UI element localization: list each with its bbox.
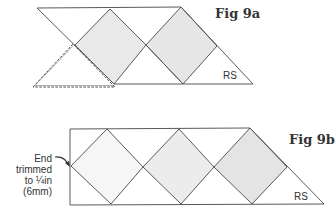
fig9b-rs-label: RS (294, 191, 308, 202)
fig9b-diamond-2 (143, 129, 214, 204)
fig9b-top-edge (70, 128, 250, 129)
annotation-line-4: (6mm) (23, 186, 52, 197)
fig9a-dashed-cut-inner (35, 46, 73, 86)
figure-9a: Fig 9a RS (33, 6, 261, 87)
annotation-line-2: trimmed (16, 164, 52, 175)
diagram-canvas: Fig 9a RS Fig 9b RS End trimmed to ¼in (… (0, 0, 336, 219)
fig9a-diamond-2 (146, 7, 217, 84)
arrowhead-icon (65, 161, 70, 167)
fig9a-title: Fig 9a (215, 6, 261, 21)
fig9b-diamond-1 (71, 129, 143, 204)
fig9b-bottom-edge (70, 204, 324, 205)
annotation-line-1: End (34, 153, 52, 164)
fig9a-rs-label: RS (223, 70, 237, 81)
fig9a-top-edge (37, 7, 181, 8)
figure-9b: Fig 9b RS End trimmed to ¼in (6mm) (16, 128, 335, 205)
fig9b-title: Fig 9b (289, 132, 335, 147)
annotation-line-3: to ¼in (25, 175, 52, 186)
fig9b-diamond-3 (214, 128, 287, 204)
fig9b-end-annotation: End trimmed to ¼in (6mm) (16, 153, 70, 197)
fig9a-diamond-1 (75, 9, 146, 84)
